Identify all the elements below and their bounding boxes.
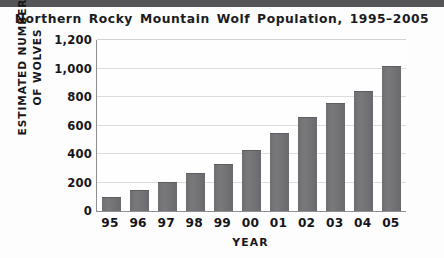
bar-00 xyxy=(242,150,261,211)
x-axis-title: YEAR xyxy=(96,236,405,249)
y-axis-tick-label: 600 xyxy=(46,119,92,133)
x-axis-tick-label: 96 xyxy=(129,216,148,230)
y-axis-tick-label: 1,000 xyxy=(46,62,92,76)
bar-04 xyxy=(354,91,373,211)
y-axis-ticks: 02004006008001,0001,200 xyxy=(44,40,92,211)
y-axis-title: ESTIMATED NUMBER OF WOLVES xyxy=(15,0,45,143)
y-axis-tick-label: 800 xyxy=(46,90,92,104)
bar-99 xyxy=(214,164,233,211)
chart-figure: Northern Rocky Mountain Wolf Population,… xyxy=(0,0,444,258)
header-rule xyxy=(0,0,444,7)
x-axis-tick-label: 98 xyxy=(185,216,204,230)
bar-95 xyxy=(102,197,121,211)
x-axis-tick-label: 05 xyxy=(381,216,400,230)
x-axis-tick-label: 95 xyxy=(101,216,120,230)
x-axis-ticks: 9596979899000102030405 xyxy=(96,216,405,230)
bar-97 xyxy=(158,182,177,211)
bar-05 xyxy=(382,66,401,211)
bar-series xyxy=(97,40,406,211)
x-axis-tick-label: 97 xyxy=(157,216,176,230)
y-axis-title-line-1: ESTIMATED NUMBER xyxy=(15,0,30,143)
x-axis-tick-label: 03 xyxy=(325,216,344,230)
y-axis-tick-label: 1,200 xyxy=(46,33,92,47)
bar-03 xyxy=(326,103,345,211)
y-axis-tick-label: 200 xyxy=(46,176,92,190)
x-axis-tick-label: 04 xyxy=(353,216,372,230)
x-axis-tick-label: 99 xyxy=(213,216,232,230)
y-axis-tick-label: 400 xyxy=(46,147,92,161)
x-axis-tick-label: 00 xyxy=(241,216,260,230)
bar-96 xyxy=(130,190,149,211)
x-axis-tick-label: 01 xyxy=(269,216,288,230)
bar-98 xyxy=(186,173,205,211)
x-axis-tick-label: 02 xyxy=(297,216,316,230)
y-axis-tick-label: 0 xyxy=(46,204,92,218)
bar-02 xyxy=(298,117,317,211)
bar-01 xyxy=(270,133,289,211)
chart-title: Northern Rocky Mountain Wolf Population,… xyxy=(0,12,444,26)
plot-area xyxy=(96,40,406,212)
y-axis-title-line-2: OF WOLVES xyxy=(30,0,45,143)
